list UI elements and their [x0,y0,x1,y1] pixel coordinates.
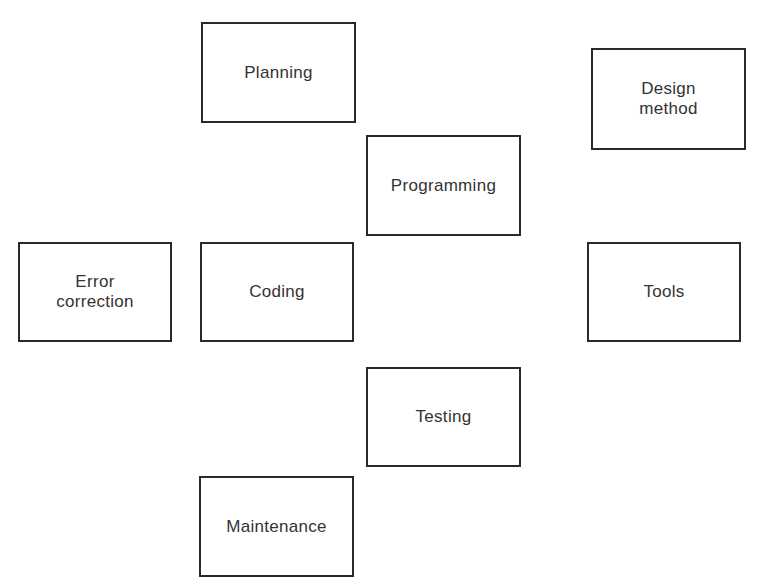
box-label: Coding [249,282,305,302]
box-tools: Tools [587,242,741,342]
box-label: Programming [391,176,496,196]
box-label: Maintenance [226,517,327,537]
box-planning: Planning [201,22,356,123]
box-maintenance: Maintenance [199,476,354,577]
box-coding: Coding [200,242,354,342]
box-programming: Programming [366,135,521,236]
box-error-correction: Error correction [18,242,172,342]
box-label: Error correction [56,272,134,312]
box-testing: Testing [366,367,521,467]
box-label: Tools [643,282,684,302]
box-design-method: Design method [591,48,746,150]
box-label: Testing [416,407,472,427]
box-label: Planning [244,63,313,83]
box-label: Design method [639,79,698,119]
